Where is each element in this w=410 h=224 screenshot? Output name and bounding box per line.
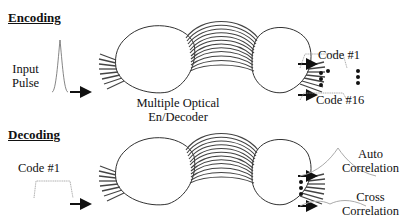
device-label-line2: En/Decoder: [118, 110, 238, 124]
auto-correlation-label: Auto Correlation: [342, 147, 399, 175]
encoder-device: [99, 22, 325, 93]
decode-ellipsis-dots: [299, 180, 303, 196]
code-16-label: Code #16: [316, 93, 364, 107]
device-label: Multiple Optical En/Decoder: [118, 96, 238, 124]
input-pulse-label: Input Pulse: [12, 62, 39, 90]
auto-line1: Auto: [342, 147, 399, 161]
code-1-label: Code #1: [318, 48, 360, 62]
device-label-line1: Multiple Optical: [118, 96, 238, 110]
decoding-heading: Decoding: [8, 127, 60, 143]
decoding-input-label: Code #1: [18, 161, 60, 175]
code-1-input-waveform: [34, 181, 73, 198]
decoder-device: [99, 134, 325, 205]
input-label-line2: Pulse: [12, 76, 39, 90]
cross-correlation-label: Cross Correlation: [342, 190, 399, 218]
input-pulse-waveform: [52, 40, 68, 92]
cross-line1: Cross: [342, 190, 399, 204]
input-label-line1: Input: [12, 62, 39, 76]
cross-line2: Correlation: [342, 204, 399, 218]
auto-line2: Correlation: [342, 161, 399, 175]
encoding-heading: Encoding: [8, 10, 61, 26]
